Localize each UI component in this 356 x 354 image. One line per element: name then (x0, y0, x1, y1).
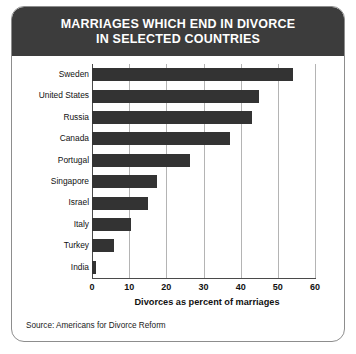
bar-row (92, 171, 315, 192)
bar-row (92, 257, 315, 278)
category-label-portugal: Portugal (15, 150, 89, 171)
chart-title-line-1: MARRIAGES WHICH END IN DIVORCE (61, 17, 295, 32)
category-label-sweden: Sweden (15, 64, 89, 85)
bar-row (92, 150, 315, 171)
x-axis-line (92, 278, 316, 279)
category-label-india: India (15, 257, 89, 278)
chart-card: MARRIAGES WHICH END IN DIVORCE IN SELECT… (11, 6, 345, 342)
category-label-canada: Canada (15, 128, 89, 149)
bar-row (92, 214, 315, 235)
source-note: Source: Americans for Divorce Reform (26, 321, 166, 330)
category-label-italy: Italy (15, 214, 89, 235)
bar-row (92, 128, 315, 149)
x-tick-label-40: 40 (236, 282, 246, 292)
category-label-russia: Russia (15, 107, 89, 128)
chart-title-line-2: IN SELECTED COUNTRIES (96, 32, 260, 47)
bar-row (92, 235, 315, 256)
bar-row (92, 192, 315, 213)
bar-italy (92, 218, 131, 231)
gridline-60 (315, 64, 316, 278)
bar-row (92, 85, 315, 106)
x-tick-label-10: 10 (124, 282, 134, 292)
category-label-turkey: Turkey (15, 235, 89, 256)
chart-header: MARRIAGES WHICH END IN DIVORCE IN SELECT… (12, 7, 344, 56)
category-label-israel: Israel (15, 192, 89, 213)
x-tick-label-30: 30 (198, 282, 208, 292)
bar-row (92, 107, 315, 128)
bar-turkey (92, 239, 114, 252)
bar-india (92, 261, 96, 274)
bar-singapore (92, 175, 157, 188)
bar-row (92, 64, 315, 85)
bar-russia (92, 111, 252, 124)
category-label-singapore: Singapore (15, 171, 89, 192)
category-label-united-states: United States (15, 85, 89, 106)
x-tick-label-50: 50 (273, 282, 283, 292)
x-tick-label-20: 20 (161, 282, 171, 292)
bar-sweden (92, 68, 293, 81)
bar-israel (92, 197, 148, 210)
bar-united-states (92, 90, 259, 103)
x-tick-label-0: 0 (89, 282, 94, 292)
chart-plot-area: SwedenUnited StatesRussiaCanadaPortugalS… (12, 56, 344, 342)
category-axis-labels: SwedenUnited StatesRussiaCanadaPortugalS… (12, 64, 89, 278)
x-axis-title: Divorces as percent of marriages (12, 297, 344, 307)
bars-container (92, 64, 315, 278)
x-tick-label-60: 60 (310, 282, 320, 292)
bar-portugal (92, 154, 190, 167)
bar-canada (92, 132, 230, 145)
